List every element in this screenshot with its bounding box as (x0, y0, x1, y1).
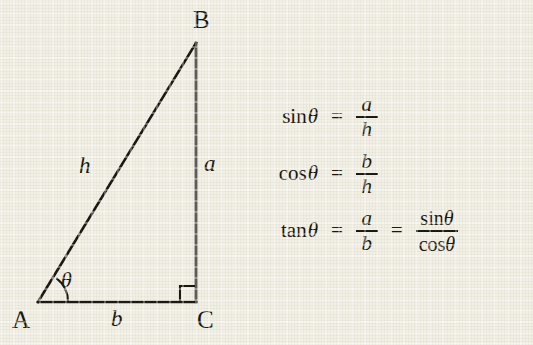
cosine-denominator: h (358, 175, 377, 198)
tangent-trig-numerator-fn: sin (420, 207, 443, 229)
tangent-numerator: a (358, 207, 377, 230)
tangent-theta: θ (307, 218, 318, 242)
tangent-trig-denominator: cosθ (416, 232, 459, 256)
cosine-fraction: b h (356, 150, 378, 198)
equation-cosine: cosθ = b h (252, 145, 528, 202)
equation-sine: sinθ = a h (252, 88, 528, 145)
vertex-label-b: B (193, 7, 210, 32)
sine-function-name: sin (282, 104, 307, 128)
angle-label-theta: θ (61, 269, 72, 291)
sine-lhs: sinθ (252, 104, 318, 129)
equation-tangent: tanθ = a b = sinθ cosθ (252, 202, 528, 259)
trigonometry-figure: B A C h a b θ sinθ = a h cosθ = b (0, 0, 533, 345)
tangent-fraction: a b (356, 207, 378, 255)
vertex-label-a: A (12, 307, 30, 332)
trig-identity-list: sinθ = a h cosθ = b h tanθ (252, 88, 528, 259)
tangent-lhs: tanθ (252, 218, 318, 243)
vertex-label-c: C (197, 307, 214, 332)
hypotenuse-line (38, 43, 196, 302)
tangent-trig-fraction: sinθ cosθ (416, 206, 459, 256)
cosine-theta: θ (307, 161, 318, 185)
sine-denominator: h (358, 118, 377, 141)
sine-equals-sign: = (318, 104, 356, 129)
sine-theta: θ (307, 104, 318, 128)
tangent-trig-numerator: sinθ (417, 206, 456, 230)
tangent-trig-denominator-theta: θ (445, 233, 455, 255)
tangent-second-equals-sign: = (378, 218, 416, 243)
side-label-opposite: a (204, 152, 216, 175)
tangent-denominator: b (358, 232, 377, 255)
cosine-equals-sign: = (318, 161, 356, 186)
tangent-trig-denominator-fn: cos (419, 233, 446, 255)
cosine-function-name: cos (279, 161, 307, 185)
sine-numerator: a (358, 93, 377, 116)
tangent-equals-sign: = (318, 218, 356, 243)
right-angle-marker (180, 286, 196, 302)
cosine-lhs: cosθ (252, 161, 318, 186)
cosine-numerator: b (358, 150, 377, 173)
tangent-function-name: tan (281, 218, 307, 242)
tangent-trig-numerator-theta: θ (444, 207, 454, 229)
side-label-hypotenuse: h (79, 154, 91, 177)
side-label-adjacent: b (111, 307, 123, 330)
sine-fraction: a h (356, 93, 378, 141)
